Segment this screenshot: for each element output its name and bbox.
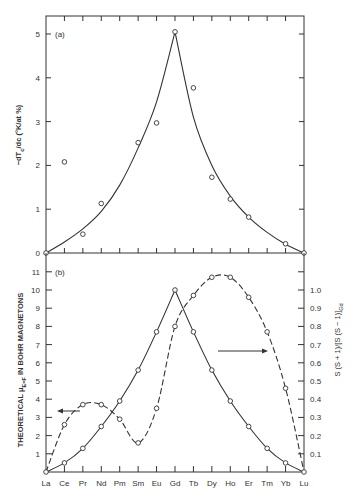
solid-point-Dy [210, 368, 215, 373]
x-label-Pm: Pm [114, 479, 126, 488]
x-label-Lu: Lu [300, 479, 309, 488]
svg-text:0.8: 0.8 [310, 322, 322, 331]
panel-b-y2-axis-label: S (S + 1)/[S (S − 1)]Gd [333, 303, 344, 376]
data-point-Sm [136, 140, 141, 145]
dashed-point-Ho [228, 275, 233, 280]
x-label-Ho: Ho [225, 479, 236, 488]
svg-text:0.9: 0.9 [310, 304, 322, 313]
svg-text:9: 9 [36, 304, 41, 313]
svg-text:10: 10 [31, 286, 40, 295]
svg-text:8: 8 [36, 322, 41, 331]
solid-point-La [44, 470, 49, 475]
svg-text:4: 4 [36, 395, 41, 404]
panel-b-data-markers [44, 275, 307, 474]
x-label-Pr: Pr [79, 479, 87, 488]
right-axis-arrow [218, 349, 268, 354]
svg-text:5: 5 [36, 30, 41, 39]
svg-text:6: 6 [36, 359, 41, 368]
x-axis-element-labels: LaCePrNdPmSmEuGdTbDyHoErTmYbLu [42, 479, 309, 488]
x-label-Dy: Dy [207, 479, 217, 488]
x-label-Ce: Ce [59, 479, 70, 488]
solid-point-Pm [117, 399, 122, 404]
solid-point-Lu [302, 470, 307, 475]
left-axis-arrow [57, 409, 80, 414]
solid-point-Ce [62, 461, 67, 466]
svg-text:3: 3 [36, 118, 41, 127]
panel-b-dashed-curve [46, 275, 304, 472]
data-point-Yb [283, 242, 288, 247]
dashed-point-Tb [191, 293, 196, 298]
dashed-point-Ce [62, 422, 67, 427]
solid-point-Er [246, 424, 251, 429]
svg-text:5: 5 [36, 377, 41, 386]
svg-text:0.7: 0.7 [310, 341, 322, 350]
data-point-Ho [228, 197, 233, 202]
panel-b-ticks: 12345678910110.10.20.30.40.50.60.70.80.9… [31, 268, 322, 472]
panel-a-frame [46, 16, 304, 253]
panel-b-solid-curve [46, 290, 304, 472]
x-label-La: La [42, 479, 51, 488]
svg-text:1.0: 1.0 [310, 286, 322, 295]
chart-canvas: 012345 (a) −dTc/dc (°K/at %) 12345678910… [0, 0, 357, 494]
svg-text:0.3: 0.3 [310, 413, 322, 422]
panel-b: 12345678910110.10.20.30.40.50.60.70.80.9… [16, 253, 344, 474]
x-label-Tm: Tm [261, 479, 273, 488]
svg-text:1: 1 [36, 205, 41, 214]
solid-point-Ho [228, 399, 233, 404]
data-point-Nd [99, 201, 104, 206]
panel-b-label: (b) [55, 268, 65, 277]
svg-text:3: 3 [36, 413, 41, 422]
dashed-point-Er [246, 295, 251, 300]
panel-b-y-axis-label: THEORETICAL μE=F IN BOHR MAGNETONS [16, 293, 27, 448]
dashed-point-Sm [136, 441, 141, 446]
svg-text:2: 2 [36, 432, 41, 441]
svg-text:0.5: 0.5 [310, 377, 322, 386]
dashed-point-Gd [173, 324, 178, 329]
dashed-point-Pm [117, 417, 122, 422]
solid-point-Sm [136, 368, 141, 373]
solid-point-Gd [173, 288, 178, 293]
panel-a-label: (a) [55, 30, 65, 39]
solid-point-Pr [81, 446, 86, 451]
data-point-Er [246, 215, 251, 220]
x-label-Sm: Sm [132, 479, 144, 488]
solid-point-Nd [99, 424, 104, 429]
data-point-Dy [210, 175, 215, 180]
data-point-Ce [62, 160, 67, 165]
x-label-Tb: Tb [189, 479, 199, 488]
figure: 012345 (a) −dTc/dc (°K/at %) 12345678910… [0, 0, 357, 494]
panel-a-data-markers [44, 30, 307, 256]
svg-text:0: 0 [36, 249, 41, 258]
svg-text:0.4: 0.4 [310, 395, 322, 404]
svg-text:7: 7 [36, 341, 41, 350]
x-label-Nd: Nd [96, 479, 106, 488]
data-point-Eu [154, 121, 159, 126]
panel-a-y-axis-label: −dTc/dc (°K/at %) [14, 104, 25, 165]
data-point-Gd [173, 30, 178, 35]
svg-text:4: 4 [36, 74, 41, 83]
x-label-Yb: Yb [281, 479, 291, 488]
svg-text:2: 2 [36, 161, 41, 170]
dashed-point-Pr [81, 402, 86, 407]
svg-text:11: 11 [32, 268, 41, 277]
panel-a-theory-curve [46, 32, 304, 253]
dashed-point-Yb [283, 386, 288, 391]
data-point-Pr [81, 232, 86, 237]
x-label-Gd: Gd [170, 479, 181, 488]
dashed-point-Dy [210, 275, 215, 280]
panel-a: 012345 (a) −dTc/dc (°K/at %) [14, 16, 306, 258]
solid-point-Tm [265, 446, 270, 451]
solid-point-Tb [191, 330, 196, 335]
dashed-point-Tm [265, 330, 270, 335]
svg-text:0.1: 0.1 [310, 450, 322, 459]
dashed-point-Eu [154, 406, 159, 411]
x-label-Eu: Eu [152, 479, 162, 488]
dashed-point-Nd [99, 402, 104, 407]
x-label-Er: Er [245, 479, 253, 488]
svg-text:1: 1 [36, 450, 41, 459]
solid-point-Eu [154, 330, 159, 335]
svg-text:0.2: 0.2 [310, 432, 322, 441]
svg-text:0.6: 0.6 [310, 359, 322, 368]
data-point-Tb [191, 86, 196, 91]
solid-point-Yb [283, 461, 288, 466]
